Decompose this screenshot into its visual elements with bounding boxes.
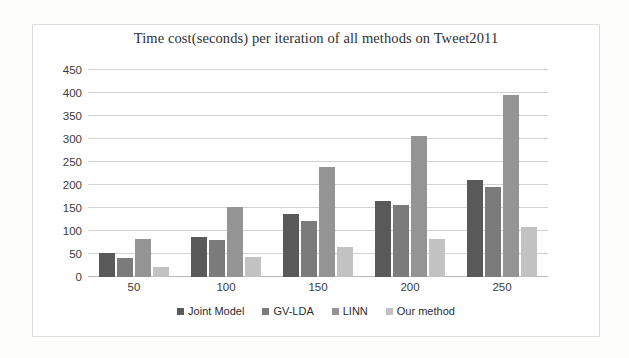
- bar: [429, 239, 445, 277]
- bar-group: [456, 70, 548, 277]
- bar: [117, 258, 133, 277]
- bar: [227, 207, 243, 277]
- bar: [301, 221, 317, 277]
- y-axis-tick-label: 300: [38, 133, 82, 145]
- bar: [191, 237, 207, 277]
- x-axis-tick-label: 150: [308, 281, 327, 293]
- bar: [209, 240, 225, 277]
- bar: [283, 214, 299, 277]
- legend-swatch-icon: [177, 308, 184, 315]
- bar: [337, 247, 353, 277]
- plot-area: [88, 70, 548, 277]
- chart-screenshot: Time cost(seconds) per iteration of all …: [0, 0, 629, 358]
- chart-legend: Joint ModelGV-LDALINNOur method: [32, 305, 600, 317]
- y-axis-tick-label: 150: [38, 202, 82, 214]
- bar: [375, 201, 391, 277]
- y-axis-tick-label: 400: [38, 87, 82, 99]
- chart-title: Time cost(seconds) per iteration of all …: [32, 30, 600, 47]
- legend-label: Our method: [397, 305, 455, 317]
- y-axis-tick-label: 0: [38, 271, 82, 283]
- bar: [153, 267, 169, 277]
- bar: [319, 167, 335, 277]
- legend-label: GV-LDA: [273, 305, 313, 317]
- bar: [503, 95, 519, 277]
- legend-item[interactable]: Our method: [386, 305, 455, 317]
- bar: [245, 257, 261, 277]
- bar-group: [272, 70, 364, 277]
- x-axis-tick-label: 250: [492, 281, 511, 293]
- legend-item[interactable]: LINN: [332, 305, 368, 317]
- bar: [411, 136, 427, 277]
- bar-group: [364, 70, 456, 277]
- legend-swatch-icon: [262, 308, 269, 315]
- legend-item[interactable]: Joint Model: [177, 305, 244, 317]
- y-axis-tick-label: 450: [38, 64, 82, 76]
- bar: [393, 205, 409, 277]
- bar: [485, 187, 501, 277]
- legend-swatch-icon: [386, 308, 393, 315]
- bar: [99, 253, 115, 277]
- x-axis-tick-label: 100: [216, 281, 235, 293]
- y-axis-tick-label: 350: [38, 110, 82, 122]
- legend-label: LINN: [343, 305, 368, 317]
- y-axis-tick-label: 200: [38, 179, 82, 191]
- bar: [521, 227, 537, 277]
- x-axis-tick-label: 200: [400, 281, 419, 293]
- y-axis-tick-labels: 050100150200250300350400450: [34, 70, 82, 277]
- y-axis-tick-label: 250: [38, 156, 82, 168]
- legend-swatch-icon: [332, 308, 339, 315]
- bar-group: [180, 70, 272, 277]
- y-axis-tick-label: 50: [38, 248, 82, 260]
- y-axis-tick-label: 100: [38, 225, 82, 237]
- x-axis-tick-labels: 50100150200250: [88, 281, 548, 301]
- bar-group: [88, 70, 180, 277]
- x-axis-tick-label: 50: [128, 281, 141, 293]
- bar: [467, 180, 483, 277]
- legend-label: Joint Model: [188, 305, 244, 317]
- legend-item[interactable]: GV-LDA: [262, 305, 313, 317]
- bar: [135, 239, 151, 277]
